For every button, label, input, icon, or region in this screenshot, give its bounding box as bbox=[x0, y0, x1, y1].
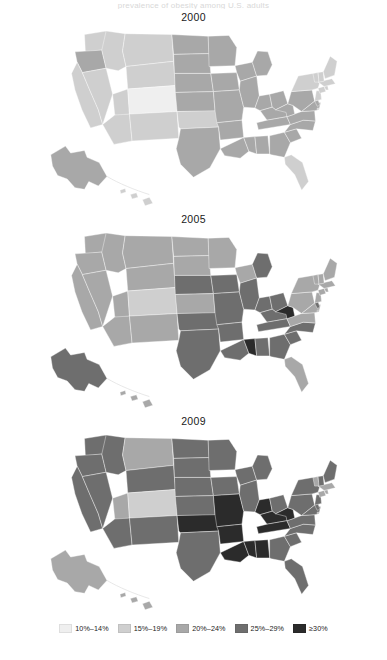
state-ia bbox=[211, 73, 240, 92]
state-fl bbox=[284, 559, 308, 594]
state-mn bbox=[208, 439, 237, 470]
legend-label: 25%–29% bbox=[251, 624, 284, 633]
state-ks bbox=[175, 92, 215, 112]
map-panel-2009: 2009 bbox=[0, 413, 387, 615]
us-choropleth-map-2009 bbox=[0, 429, 387, 615]
legend-label: 20%–24% bbox=[192, 624, 225, 633]
panel-title-2009: 2009 bbox=[0, 413, 387, 429]
state-ak bbox=[51, 550, 107, 593]
state-ks bbox=[175, 294, 215, 314]
state-ok bbox=[177, 515, 219, 533]
state-ar bbox=[217, 322, 244, 342]
state-mi bbox=[252, 455, 272, 480]
us-choropleth-map-2000 bbox=[0, 25, 387, 211]
legend-label: 10%–14% bbox=[75, 624, 108, 633]
state-ut bbox=[113, 291, 130, 319]
state-fl bbox=[284, 357, 308, 392]
panel-title-2000: 2000 bbox=[0, 9, 387, 25]
state-fl bbox=[284, 155, 308, 190]
state-mn bbox=[208, 35, 237, 66]
state-sd bbox=[174, 256, 211, 276]
state-ok bbox=[177, 313, 219, 331]
state-la bbox=[220, 137, 249, 158]
state-dc bbox=[317, 512, 319, 514]
state-la bbox=[220, 541, 249, 562]
state-sd bbox=[174, 54, 211, 74]
state-mo bbox=[213, 292, 243, 325]
state-al bbox=[255, 338, 270, 356]
state-nd bbox=[172, 439, 209, 459]
state-az bbox=[103, 114, 132, 144]
state-nd bbox=[172, 237, 209, 257]
state-ut bbox=[113, 89, 130, 117]
state-nh bbox=[318, 72, 324, 82]
legend-swatch bbox=[293, 624, 306, 633]
legend-item: 10%–14% bbox=[59, 624, 108, 633]
state-hi bbox=[120, 391, 153, 408]
state-mt bbox=[123, 236, 174, 269]
state-al bbox=[255, 136, 270, 154]
state-nh bbox=[318, 476, 324, 486]
map-panel-2000: 2000 bbox=[0, 9, 387, 211]
state-az bbox=[103, 316, 132, 346]
aleutian-sweep bbox=[107, 580, 149, 598]
state-nm bbox=[129, 314, 178, 343]
state-az bbox=[103, 518, 132, 548]
state-nh bbox=[318, 274, 324, 284]
state-tx bbox=[176, 127, 220, 177]
state-ut bbox=[113, 493, 130, 521]
legend-swatch bbox=[235, 624, 248, 633]
legend-label: 15%–19% bbox=[134, 624, 167, 633]
figure-caption-clipped: prevalence of obesity among U.S. adults bbox=[0, 0, 387, 9]
state-ne bbox=[174, 73, 213, 92]
aleutian-sweep bbox=[107, 378, 149, 396]
state-ar bbox=[217, 120, 244, 140]
state-ne bbox=[174, 275, 213, 294]
legend-item: 20%–24% bbox=[176, 624, 225, 633]
state-ok bbox=[177, 111, 219, 129]
state-tx bbox=[176, 329, 220, 379]
panel-title-2005: 2005 bbox=[0, 211, 387, 227]
state-mi bbox=[252, 253, 272, 278]
state-ne bbox=[174, 477, 213, 496]
state-hi bbox=[120, 593, 153, 610]
aleutian-sweep bbox=[107, 176, 149, 194]
state-co bbox=[128, 288, 177, 317]
state-me bbox=[323, 56, 337, 78]
legend-item: ≥30% bbox=[293, 624, 328, 633]
state-tx bbox=[176, 531, 220, 581]
state-nm bbox=[129, 112, 178, 141]
state-ia bbox=[211, 275, 240, 294]
legend-item: 15%–19% bbox=[118, 624, 167, 633]
state-la bbox=[220, 339, 249, 360]
state-ia bbox=[211, 477, 240, 496]
legend-swatch bbox=[59, 624, 72, 633]
state-co bbox=[128, 86, 177, 115]
state-sd bbox=[174, 458, 211, 478]
state-me bbox=[323, 460, 337, 482]
state-ak bbox=[51, 348, 107, 391]
obesity-prevalence-figure: prevalence of obesity among U.S. adults … bbox=[0, 0, 387, 660]
legend-item: 25%–29% bbox=[235, 624, 284, 633]
us-map-svg bbox=[0, 227, 387, 413]
state-hi bbox=[120, 189, 153, 206]
legend-label: ≥30% bbox=[309, 624, 328, 633]
state-co bbox=[128, 490, 177, 519]
map-panel-2005: 2005 bbox=[0, 211, 387, 413]
state-mn bbox=[208, 237, 237, 268]
state-al bbox=[255, 540, 270, 558]
us-map-svg bbox=[0, 25, 387, 211]
state-nd bbox=[172, 35, 209, 55]
state-mt bbox=[123, 34, 174, 67]
state-dc bbox=[317, 108, 319, 110]
state-mo bbox=[213, 90, 243, 123]
state-ks bbox=[175, 496, 215, 516]
state-ak bbox=[51, 146, 107, 189]
state-mi bbox=[252, 51, 272, 76]
us-choropleth-map-2005 bbox=[0, 227, 387, 413]
state-mo bbox=[213, 494, 243, 527]
state-nm bbox=[129, 516, 178, 545]
state-mt bbox=[123, 438, 174, 471]
legend-swatch bbox=[176, 624, 189, 633]
state-me bbox=[323, 258, 337, 280]
